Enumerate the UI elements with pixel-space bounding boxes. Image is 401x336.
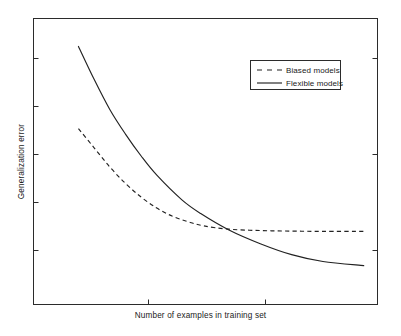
x-axis-label: Number of examples in training set bbox=[0, 311, 401, 320]
legend-label-flexible-models: Flexible models bbox=[286, 79, 343, 88]
legend-dashed-line-icon bbox=[256, 64, 283, 76]
legend: Biased models Flexible models bbox=[250, 60, 341, 90]
y-axis-label-container: Generalization error bbox=[13, 18, 31, 305]
legend-entry-flexible-models: Flexible models bbox=[251, 76, 342, 90]
legend-label-biased-models: Biased models bbox=[286, 66, 340, 75]
y-axis-label: Generalization error bbox=[18, 124, 27, 199]
legend-solid-line-icon bbox=[256, 77, 283, 89]
plot-canvas bbox=[0, 0, 401, 336]
generalization-error-chart: Biased models Flexible models Number of … bbox=[0, 0, 401, 336]
legend-entry-biased-models: Biased models bbox=[251, 63, 342, 77]
